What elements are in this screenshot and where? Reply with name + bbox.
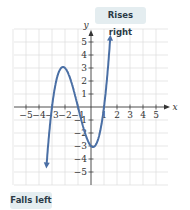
svg-text:5: 5 <box>153 110 159 120</box>
svg-text:3: 3 <box>127 110 133 120</box>
polynomial-graph: −5−4−3−2−112345−5−4−3−2−112345xy <box>0 0 190 210</box>
chart: −5−4−3−2−112345−5−4−3−2−112345xy Rises r… <box>0 0 190 210</box>
svg-text:−2: −2 <box>58 110 71 120</box>
svg-text:−5: −5 <box>74 167 88 177</box>
svg-text:2: 2 <box>114 110 120 120</box>
rises-right-label: Rises right <box>95 7 146 24</box>
svg-text:1: 1 <box>81 89 87 99</box>
svg-text:−5: −5 <box>19 110 33 120</box>
svg-text:4: 4 <box>140 110 146 120</box>
svg-text:3: 3 <box>81 63 87 73</box>
svg-text:x: x <box>172 102 177 112</box>
svg-text:−4: −4 <box>32 110 46 120</box>
svg-text:y: y <box>82 20 89 30</box>
svg-text:−3: −3 <box>74 141 88 151</box>
svg-text:5: 5 <box>81 37 87 47</box>
falls-left-label: Falls left <box>10 192 52 209</box>
svg-text:2: 2 <box>81 76 87 86</box>
svg-text:4: 4 <box>81 50 87 60</box>
svg-text:−4: −4 <box>74 154 88 164</box>
